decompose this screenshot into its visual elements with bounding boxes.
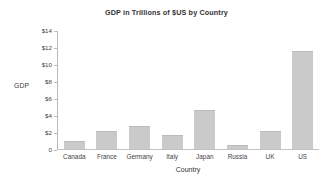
y-axis-tick-label: $6 bbox=[45, 95, 52, 102]
bar-uk[interactable] bbox=[260, 131, 281, 149]
y-axis-tick-mark bbox=[54, 133, 57, 134]
y-axis-tick-label: 0 bbox=[49, 146, 52, 153]
bar-canada[interactable] bbox=[64, 141, 85, 149]
y-axis-tick-label: $12 bbox=[42, 44, 52, 51]
bar-us[interactable] bbox=[292, 51, 313, 149]
bar-slot bbox=[286, 31, 319, 149]
plot-area: 0$2$4$6$8$10$12$14 bbox=[57, 31, 319, 150]
x-axis-tick-label: US bbox=[286, 153, 319, 160]
bar-slot bbox=[123, 31, 156, 149]
y-axis-tick-mark bbox=[54, 65, 57, 66]
x-axis-title: Country bbox=[57, 166, 319, 173]
y-axis-tick-label: $2 bbox=[45, 129, 52, 136]
bar-slot bbox=[221, 31, 254, 149]
y-axis-tick-mark bbox=[54, 99, 57, 100]
bar-japan[interactable] bbox=[194, 110, 215, 149]
y-axis-tick-mark bbox=[54, 48, 57, 49]
y-axis-tick-label: $14 bbox=[42, 27, 52, 34]
x-axis-tick-label: Germany bbox=[123, 153, 156, 160]
bar-russia[interactable] bbox=[227, 145, 248, 149]
bar-italy[interactable] bbox=[162, 135, 183, 149]
bar-slot bbox=[254, 31, 287, 149]
y-axis-tick-mark bbox=[54, 150, 57, 151]
bar-germany[interactable] bbox=[129, 126, 150, 149]
x-axis-tick-label: UK bbox=[254, 153, 287, 160]
x-axis-tick-label: Russia bbox=[221, 153, 254, 160]
bars-layer bbox=[58, 31, 319, 149]
y-axis-tick-label: $10 bbox=[42, 61, 52, 68]
chart-title: GDP in Trillions of $US by Country bbox=[0, 8, 333, 17]
y-axis-tick-mark bbox=[54, 116, 57, 117]
x-axis-tick-label: Canada bbox=[58, 153, 91, 160]
bar-slot bbox=[156, 31, 189, 149]
y-axis-tick-mark bbox=[54, 82, 57, 83]
x-axis-tick-label: Japan bbox=[189, 153, 222, 160]
bar-chart-figure: GDP in Trillions of $US by Country GDP 0… bbox=[0, 0, 333, 185]
y-axis-tick-label: $4 bbox=[45, 112, 52, 119]
x-axis-tick-labels: CanadaFranceGermanyItalyJapanRussiaUKUS bbox=[58, 153, 319, 160]
x-axis-tick-label: Italy bbox=[156, 153, 189, 160]
bar-slot bbox=[91, 31, 124, 149]
y-axis-title: GDP bbox=[14, 82, 29, 89]
x-axis-tick-label: France bbox=[91, 153, 124, 160]
bar-slot bbox=[58, 31, 91, 149]
bar-slot bbox=[189, 31, 222, 149]
x-axis-line bbox=[57, 149, 319, 150]
y-axis-tick-mark bbox=[54, 31, 57, 32]
y-axis-tick-label: $8 bbox=[45, 78, 52, 85]
bar-france[interactable] bbox=[96, 131, 117, 149]
